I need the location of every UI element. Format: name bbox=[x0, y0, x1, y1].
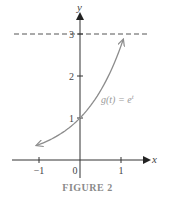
figure-caption: FIGURE 2 bbox=[0, 182, 175, 193]
y-tick-label-1: 1 bbox=[69, 113, 74, 124]
exp-function-plot: −1 0 1 1 2 3 x y g(t) = et bbox=[0, 0, 175, 199]
y-tick-label-3: 3 bbox=[69, 29, 74, 40]
x-tick-label-0: 0 bbox=[73, 165, 78, 176]
x-tick-label-1: 1 bbox=[119, 165, 124, 176]
function-label: g(t) = et bbox=[101, 93, 135, 106]
x-tick-label-neg1: −1 bbox=[34, 165, 45, 176]
x-axis-label: x bbox=[151, 153, 157, 165]
y-axis-label: y bbox=[76, 1, 82, 13]
y-tick-label-2: 2 bbox=[69, 71, 74, 82]
